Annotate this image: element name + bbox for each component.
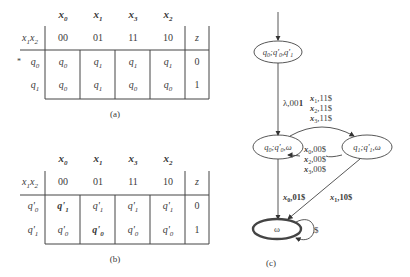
edge-n2-n1-tail <box>326 155 342 157</box>
node-start-label: q0;q'0,q'1 <box>263 47 293 58</box>
table-grid-lines <box>0 0 230 277</box>
edge-label-lambda: λ,001 <box>283 98 304 108</box>
node-n2-label: q1;q'1,ω <box>353 142 380 153</box>
node-n1-label: q0;q'0,ω <box>264 142 291 153</box>
edge-label-n2-final: x1,10$ <box>329 192 353 203</box>
svg-text:x3,00$: x3,00$ <box>303 164 326 175</box>
edge-label-n1-final: x0,01$ <box>282 192 306 203</box>
edge-label-n1-n2: x1,11$ x2,11$ x3,11$ <box>309 93 332 124</box>
edge-n1-n2 <box>290 127 354 136</box>
svg-text:x3,11$: x3,11$ <box>309 113 332 124</box>
node-final-label: ω <box>274 224 280 234</box>
caption-c: (c) <box>266 258 276 268</box>
edge-final-self <box>296 220 314 240</box>
edge-label-n2-n1: x0,00$ x2,00$ x3,00$ <box>303 144 326 175</box>
edge-label-self-loop: $ <box>314 225 319 235</box>
state-diagram-c: q0;q'0,q'1 q0;q'0,ω q1;q'1,ω ω λ,001 x1,… <box>230 0 410 277</box>
